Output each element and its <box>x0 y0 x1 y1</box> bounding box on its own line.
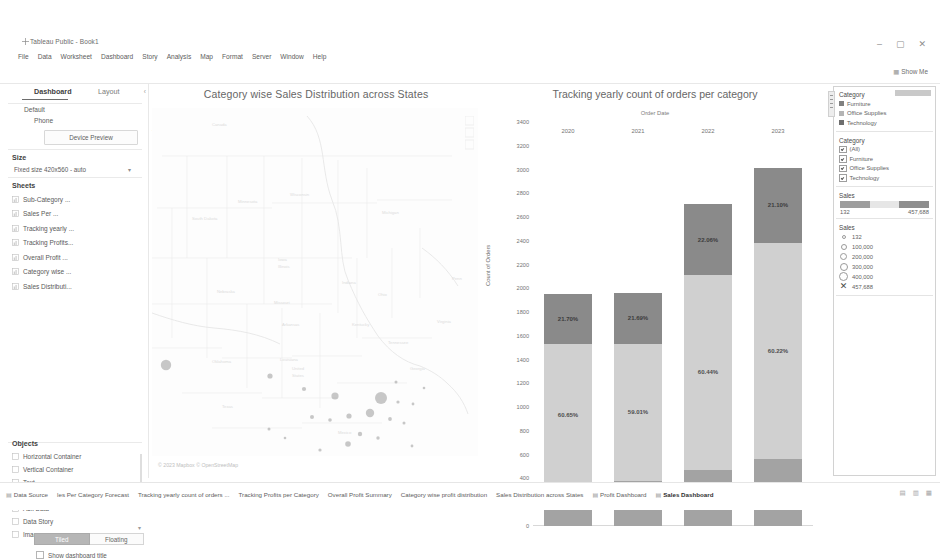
menu-analysis[interactable]: Analysis <box>167 53 192 60</box>
bar-segment-office-supplies[interactable]: 60.65% <box>544 344 592 485</box>
sheet-item[interactable]: Sales Distributi... <box>12 279 144 294</box>
legend-item[interactable]: Office Supplies <box>839 109 930 119</box>
legend-item[interactable]: Technology <box>839 118 930 128</box>
size-legend-row[interactable]: 132 <box>839 232 930 242</box>
size-legend-row[interactable]: 100,000 <box>839 242 930 252</box>
close-button[interactable]: ✕ <box>918 40 926 49</box>
menu-help[interactable]: Help <box>313 53 327 60</box>
object-item[interactable]: Horizontal Container <box>12 450 144 463</box>
filter-checkbox-row[interactable]: (All) <box>839 145 930 155</box>
filter-checkbox-row[interactable]: Office Supplies <box>839 164 930 174</box>
tab-layout[interactable]: Layout <box>98 87 120 96</box>
size-value[interactable]: Fixed size 420x560 - auto <box>14 166 86 173</box>
size-legend-row[interactable]: 200,000 <box>839 252 930 262</box>
legend-item[interactable]: Furniture <box>839 99 930 109</box>
maximize-button[interactable]: ▢ <box>896 40 905 49</box>
svg-text:Virginia: Virginia <box>437 319 452 324</box>
bar-segment-office-supplies[interactable]: 60.44% <box>684 275 732 470</box>
filter-checkbox[interactable] <box>839 155 847 163</box>
panel-drag-handle[interactable] <box>828 91 835 117</box>
collapse-panel-icon[interactable]: ‹ <box>144 88 146 95</box>
objects-heading: Objects <box>12 440 38 448</box>
sheet-tab[interactable]: Category wise profit distribution <box>401 491 487 498</box>
sheet-tab[interactable]: ▤Profit Dashboard <box>592 491 646 498</box>
sheet-tab-label: Sales Distribution across States <box>496 491 583 498</box>
map-controls[interactable] <box>465 116 474 151</box>
new-story-icon[interactable]: ▦ <box>926 489 932 497</box>
menu-worksheet[interactable]: Worksheet <box>61 53 92 60</box>
menu-dashboard[interactable]: Dashboard <box>101 53 133 60</box>
y-axis-tick: 1000 <box>517 404 529 410</box>
show-dashboard-title-checkbox[interactable] <box>36 551 44 559</box>
bar-segment-technology[interactable]: 22.06% <box>684 204 732 275</box>
legend-color-swatch <box>839 111 844 116</box>
sheet-item[interactable]: Category wise ... <box>12 265 144 280</box>
sheet-tab[interactable]: Sales Distribution across States <box>496 491 583 498</box>
device-preview-button[interactable]: Device Preview <box>44 130 138 145</box>
show-dashboard-title-row[interactable]: Show dashboard title <box>36 551 107 559</box>
menu-format[interactable]: Format <box>222 53 243 60</box>
bar-segment-label: 21.69% <box>628 315 648 321</box>
bar-segment-technology[interactable]: 21.10% <box>754 168 802 244</box>
table-icon <box>12 254 19 261</box>
sheet-tab[interactable]: ▤Sales Dashboard <box>656 491 714 498</box>
bar-segment-office-supplies[interactable]: 60.22% <box>754 243 802 459</box>
sheet-tab[interactable]: Overall Profit Summary <box>328 491 392 498</box>
filter-checkbox[interactable] <box>839 165 847 173</box>
sheet-tab[interactable]: Tracking Profits per Category <box>239 491 319 498</box>
bar-chart-icon <box>12 196 19 203</box>
plot-area[interactable]: 0200400600800100012001400160018002000220… <box>533 122 813 526</box>
sheet-item[interactable]: Sales Per ... <box>12 207 144 222</box>
tab-dashboard[interactable]: Dashboard <box>34 87 72 96</box>
y-axis-tick: 3000 <box>517 167 529 173</box>
map-canvas[interactable]: Canada Minnesota Wisconsin South Dakota … <box>152 108 478 456</box>
minimize-button[interactable]: – <box>877 40 882 49</box>
bar-segment-technology[interactable]: 21.70% <box>544 294 592 344</box>
bar-segment-office-supplies[interactable]: 59.01% <box>614 344 662 481</box>
menu-file[interactable]: File <box>18 53 29 60</box>
filter-checkbox-row[interactable]: Technology <box>839 173 930 183</box>
object-item[interactable]: Data Story <box>12 515 144 528</box>
sheet-item[interactable]: Tracking Profits... <box>12 236 144 251</box>
panel-splitter[interactable] <box>148 84 149 478</box>
sheet-tab[interactable]: Tracking yearly count of orders ... <box>138 491 230 498</box>
stacked-bar-icon <box>12 225 19 232</box>
filter-checkbox[interactable] <box>839 146 847 154</box>
menu-story[interactable]: Story <box>142 53 157 60</box>
menu-server[interactable]: Server <box>252 53 271 60</box>
sheet-tab[interactable]: les Per Category Forecast <box>57 491 129 498</box>
sheet-tab[interactable]: ▤Data Source <box>6 491 48 498</box>
new-worksheet-icon[interactable]: ▤ <box>900 489 906 497</box>
sheet-label: Sub-Category ... <box>23 196 70 203</box>
sales-range-slider[interactable] <box>840 201 929 208</box>
filter-checkbox-row[interactable]: Furniture <box>839 154 930 164</box>
size-legend-row[interactable]: ✕457,688 <box>839 282 930 292</box>
sheet-item[interactable]: Overall Profit ... <box>12 250 144 265</box>
sales-size-legend: Sales 132100,000200,000300,000400,000✕45… <box>834 222 935 292</box>
show-dashboard-title-label: Show dashboard title <box>48 552 107 559</box>
sheet-item[interactable]: Sub-Category ... <box>12 192 144 207</box>
size-legend-row[interactable]: 300,000 <box>839 262 930 272</box>
show-me-button[interactable]: ▦Show Me <box>893 68 928 76</box>
device-default[interactable]: Default <box>24 106 45 113</box>
remove-size-legend-icon[interactable]: ✕ <box>839 283 848 290</box>
bar-segment-technology[interactable]: 21.69% <box>614 293 662 344</box>
sheet-item[interactable]: Tracking yearly ... <box>12 221 144 236</box>
sales-range-title: Sales <box>839 192 930 199</box>
floating-button[interactable]: Floating <box>90 533 145 545</box>
line-chart-icon <box>12 210 19 217</box>
filter-checkbox[interactable] <box>839 174 847 182</box>
object-item[interactable]: Vertical Container <box>12 463 144 476</box>
menu-data[interactable]: Data <box>38 53 52 60</box>
menu-map[interactable]: Map <box>200 53 213 60</box>
size-legend-row[interactable]: 400,000 <box>839 272 930 282</box>
tiled-button[interactable]: Tiled <box>34 533 90 545</box>
sheet-tab-label: Overall Profit Summary <box>328 491 392 498</box>
dashboard-icon: ▤ <box>656 491 662 498</box>
size-dropdown-icon[interactable]: ▾ <box>128 166 131 173</box>
device-phone[interactable]: Phone <box>34 117 53 124</box>
menu-window[interactable]: Window <box>280 53 303 60</box>
x-axis-tick: 2020 <box>528 128 608 134</box>
new-dashboard-icon[interactable]: ▥ <box>913 489 919 497</box>
image-icon <box>12 531 19 538</box>
